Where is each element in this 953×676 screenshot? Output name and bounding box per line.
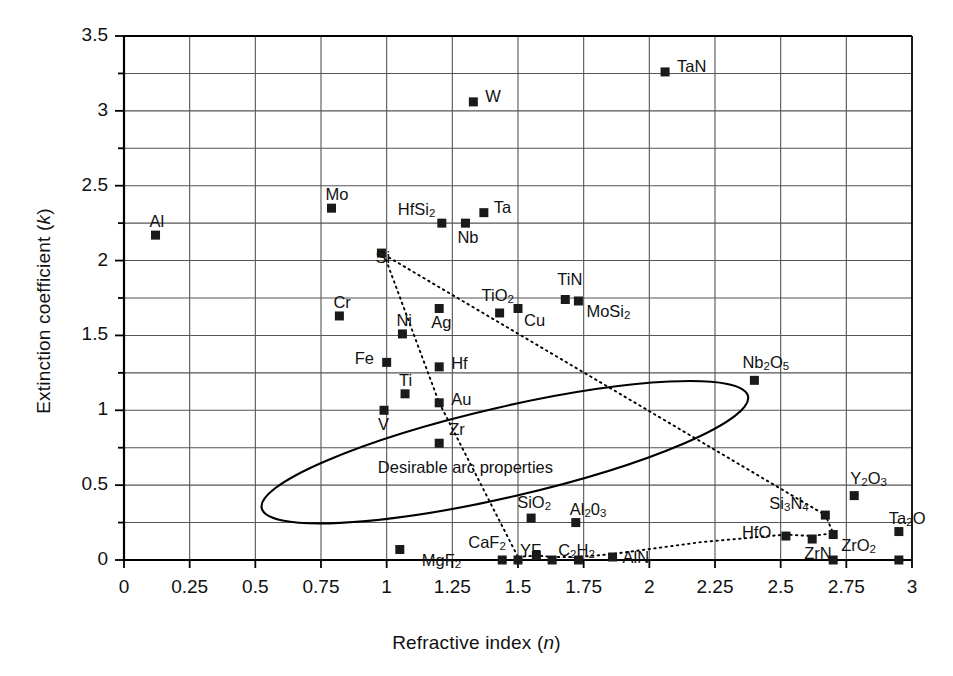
region-annotation: Desirable arc properties — [378, 458, 553, 477]
y-tick-label: 0.5 — [32, 473, 108, 495]
y-tick-label: 0 — [32, 548, 108, 570]
data-marker — [382, 358, 391, 367]
data-marker — [495, 308, 504, 317]
point-label: Hf — [451, 355, 468, 372]
data-marker — [571, 518, 580, 527]
data-marker — [894, 556, 903, 565]
point-label: Ti — [399, 372, 412, 389]
data-marker — [514, 304, 523, 313]
y-tick-label: 3.5 — [32, 24, 108, 46]
data-marker — [498, 556, 507, 565]
point-label: Nb2O5 — [742, 354, 789, 373]
data-marker — [829, 530, 838, 539]
data-marker — [435, 304, 444, 313]
data-marker — [781, 532, 790, 541]
y-tick-label: 1 — [32, 398, 108, 420]
point-label: Ni — [396, 312, 412, 329]
point-label: Y2O3 — [850, 470, 887, 489]
x-tick-label: 3 — [872, 576, 952, 598]
point-label: Ta — [494, 199, 511, 216]
data-marker — [479, 208, 488, 217]
data-marker — [437, 219, 446, 228]
point-label: SiO2 — [517, 494, 551, 513]
data-marker — [548, 556, 557, 565]
point-label: AlN — [623, 549, 650, 566]
point-label: Ag — [431, 314, 451, 331]
point-label: W — [485, 88, 501, 105]
data-marker — [750, 376, 759, 385]
data-marker — [821, 511, 830, 520]
point-label: Au — [451, 391, 471, 408]
data-marker — [469, 97, 478, 106]
point-label: TaN — [677, 58, 706, 75]
data-marker — [894, 527, 903, 536]
data-marker — [335, 311, 344, 320]
point-label: Ta2O — [889, 510, 926, 529]
point-label: TiO2 — [482, 287, 514, 306]
grid-layer — [124, 36, 912, 560]
y-tick-label: 1.5 — [32, 323, 108, 345]
data-marker — [561, 295, 570, 304]
data-marker — [435, 362, 444, 371]
point-label: YF — [520, 542, 541, 559]
point-label: MgF2 — [422, 552, 461, 571]
point-label: Cu — [524, 312, 545, 329]
data-marker — [395, 545, 404, 554]
data-marker — [850, 491, 859, 500]
data-marker — [380, 406, 389, 415]
point-label: Nb — [457, 229, 478, 246]
point-label: Al — [150, 213, 165, 230]
data-marker — [398, 329, 407, 338]
data-marker — [574, 296, 583, 305]
point-label: Fe — [355, 350, 374, 367]
point-label: TiN — [557, 271, 582, 288]
point-label: HfSi2 — [398, 201, 436, 220]
point-label: Cr — [333, 294, 350, 311]
point-label: MoSi2 — [586, 303, 630, 322]
point-label: ZrO2 — [841, 537, 876, 556]
point-label: CaF2 — [468, 534, 506, 553]
data-marker — [401, 389, 410, 398]
data-marker — [151, 231, 160, 240]
data-marker — [327, 204, 336, 213]
y-tick-label: 2 — [32, 249, 108, 271]
data-marker — [808, 535, 817, 544]
point-label: V — [378, 416, 389, 433]
point-label: Al203 — [570, 501, 607, 520]
data-marker — [527, 514, 536, 523]
data-marker — [435, 439, 444, 448]
data-marker — [461, 219, 470, 228]
point-label: Mo — [326, 186, 349, 203]
point-label: ZrN — [804, 545, 832, 562]
point-label: Si — [375, 249, 390, 266]
data-marker — [608, 553, 617, 562]
point-label: Si3N4 — [769, 495, 808, 514]
x-axis-title: Refractive index (n) — [0, 632, 953, 654]
scatter-chart-figure: Extinction coefficient (k) Refractive in… — [0, 0, 953, 676]
y-tick-label: 3 — [32, 99, 108, 121]
data-marker — [661, 67, 670, 76]
y-tick-label: 2.5 — [32, 174, 108, 196]
data-marker — [435, 398, 444, 407]
plot-canvas — [0, 0, 953, 676]
point-label: C2H2 — [558, 542, 595, 561]
point-label: Zr — [449, 421, 465, 438]
point-label: HfO — [742, 524, 771, 541]
